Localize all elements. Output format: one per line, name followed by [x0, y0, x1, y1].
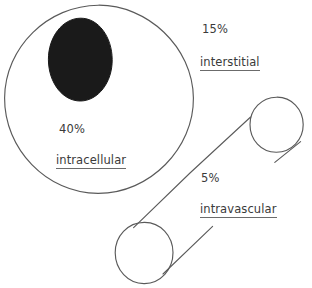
nucleus-ellipse — [48, 18, 112, 101]
leader-line-intravascular — [163, 226, 213, 274]
vessel-circle-lower — [115, 222, 173, 283]
vessel-circle-upper — [250, 97, 303, 152]
fluid-compartment-diagram: 15% interstitial 40% intracellular 5% in… — [0, 0, 312, 288]
diagram-canvas — [0, 0, 312, 288]
vessel-connector-line — [134, 117, 251, 228]
